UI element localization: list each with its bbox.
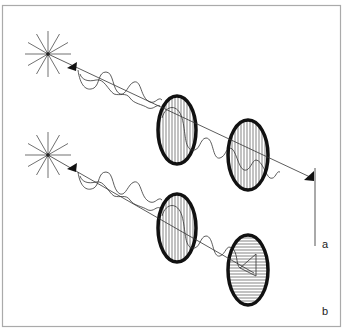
arrowhead-icon: [67, 163, 77, 172]
analyzer-filter-vertical: [228, 120, 268, 190]
light-ray: [48, 155, 254, 273]
polarizer-filter-vertical: [158, 194, 196, 262]
panel-label-a: a: [322, 238, 328, 250]
polarizer-filter-vertical: [158, 96, 196, 164]
arrowhead-icon: [304, 171, 314, 181]
unpolarized-wave: [78, 172, 162, 202]
unpolarized-wave: [78, 70, 162, 102]
polarization-diagram: [0, 0, 347, 332]
panel-label-b: b: [322, 305, 328, 317]
